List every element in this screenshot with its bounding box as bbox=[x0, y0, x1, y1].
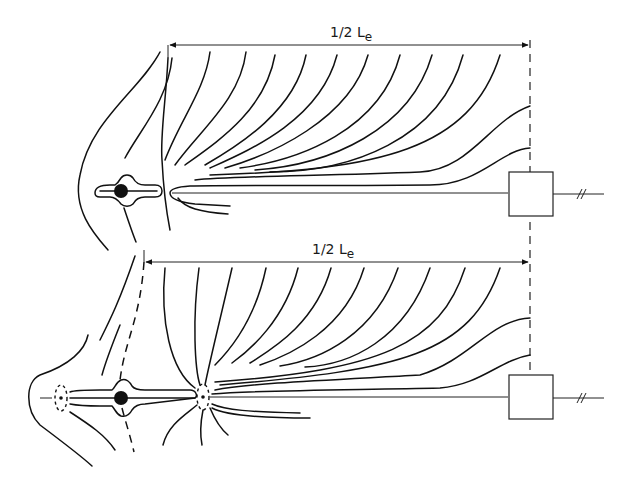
bottom-dimension-label: 1/2 Le bbox=[312, 241, 354, 261]
top-device-box bbox=[509, 172, 553, 216]
top-diagram: 1/2 Le bbox=[78, 24, 604, 250]
field-line-diagram: 1/2 Le bbox=[0, 0, 631, 490]
dashed-boundary-line bbox=[120, 262, 144, 380]
outer-field-line bbox=[78, 52, 160, 250]
bottom-device-box bbox=[509, 375, 553, 419]
bottom-diagram: 1/2 Le bbox=[29, 241, 604, 466]
electrode-core bbox=[114, 184, 128, 198]
outer-field-line bbox=[29, 335, 92, 466]
top-dimension-label: 1/2 Le bbox=[330, 24, 372, 44]
electrode-core bbox=[114, 391, 128, 405]
